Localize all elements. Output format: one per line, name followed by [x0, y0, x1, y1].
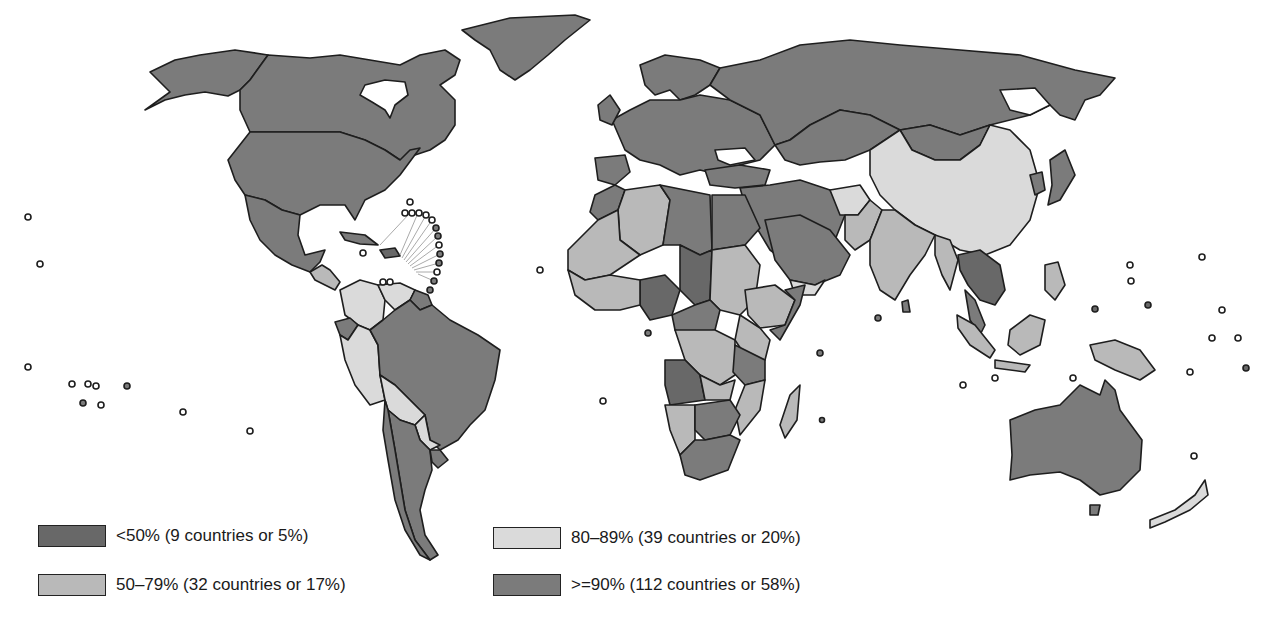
region-hispaniola [380, 248, 400, 258]
legend-item-50to79: 50–79% (32 countries or 17%) [38, 574, 346, 596]
legend-label-50to79: 50–79% (32 countries or 17%) [116, 575, 346, 595]
region-sri-lanka [902, 300, 910, 312]
region-japan [1048, 150, 1075, 205]
region-madagascar [780, 385, 800, 438]
region-scandinavia [640, 55, 720, 100]
region-mozambique [735, 380, 765, 435]
region-new-zealand [1150, 480, 1208, 528]
region-libya [660, 185, 712, 255]
legend-swatch-50to79 [38, 574, 106, 596]
region-nigeria [640, 275, 680, 320]
legend-item-lt50: <50% (9 countries or 5%) [38, 525, 308, 547]
region-chad [680, 245, 712, 305]
region-botswana-zim [695, 400, 740, 440]
region-turkey [705, 165, 770, 188]
legend-swatch-lt50 [38, 525, 106, 547]
region-indochina [958, 250, 1005, 305]
region-new-guinea [1090, 340, 1155, 380]
region-australia [1010, 380, 1142, 495]
legend-label-lt50: <50% (9 countries or 5%) [116, 526, 308, 546]
region-philippines [1045, 262, 1065, 300]
legend-item-80to89: 80–89% (39 countries or 20%) [493, 527, 801, 549]
region-west-coast [568, 270, 640, 310]
legend-label-gte90: >=90% (112 countries or 58%) [571, 575, 800, 595]
region-cuba [340, 232, 378, 245]
region-uruguay [430, 450, 448, 468]
legend-swatch-gte90 [493, 574, 561, 596]
legend-label-80to89: 80–89% (39 countries or 20%) [571, 528, 801, 548]
region-central-america [310, 265, 340, 290]
region-greenland [462, 15, 590, 80]
legend-item-gte90: >=90% (112 countries or 58%) [493, 574, 800, 596]
region-borneo [1008, 315, 1045, 355]
legend-swatch-80to89 [493, 527, 561, 549]
region-iberia [595, 155, 630, 185]
region-tasmania [1090, 505, 1100, 515]
region-java [995, 360, 1030, 372]
